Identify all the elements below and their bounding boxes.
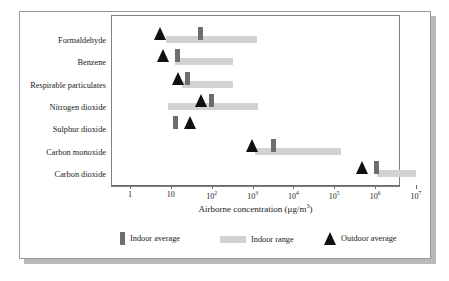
x-axis-tick-label: 104 [288, 190, 299, 201]
x-axis-tick [130, 185, 131, 189]
indoor-range-bar [377, 170, 416, 177]
category-label: Benzene [77, 58, 106, 68]
x-axis-tick [293, 185, 294, 189]
x-axis-tick-label: 103 [247, 190, 258, 201]
x-axis-title-tail: ) [309, 204, 312, 214]
x-axis-tick-label: 10 [167, 190, 175, 199]
indoor-average-marker [185, 72, 190, 85]
category-label: Nitrogen dioxide [50, 103, 106, 113]
legend-item-indoor-range: Indoor range [220, 235, 294, 244]
outdoor-average-marker-icon [157, 49, 169, 62]
x-axis-tick-label: 106 [370, 190, 381, 201]
legend-item-outdoor-average: Outdoor average [324, 232, 397, 245]
x-axis-title: Airborne concentration (μg/m3) [111, 203, 400, 214]
indoor-range-bar [175, 58, 233, 65]
indoor-average-marker [198, 27, 203, 40]
legend-label-indoor-average: Indoor average [130, 234, 180, 243]
indoor-average-marker [173, 116, 178, 129]
x-axis-tick-label: 105 [329, 190, 340, 201]
outdoor-average-marker-icon [195, 94, 207, 107]
x-axis-tick [212, 185, 213, 189]
indoor-average-swatch-icon [120, 232, 125, 245]
category-label: Carbon dioxide [55, 170, 106, 180]
legend-label-indoor-range: Indoor range [251, 235, 294, 244]
indoor-average-marker [271, 139, 276, 152]
outdoor-average-marker-icon [246, 139, 258, 152]
indoor-average-marker [175, 49, 180, 62]
x-axis-title-text: Airborne concentration (μg/m [199, 204, 307, 214]
x-axis-tick [334, 185, 335, 189]
legend-item-indoor-average: Indoor average [120, 232, 180, 245]
x-axis-tick [253, 185, 254, 189]
category-label: Respirable particulates [30, 81, 106, 91]
x-axis-tick-label: 1 [128, 190, 132, 199]
x-axis-tick [375, 185, 376, 189]
category-label: Formaldehyde [58, 36, 106, 46]
indoor-range-swatch-icon [220, 236, 246, 243]
category-label: Sulphur dioxide [53, 125, 106, 135]
chart-legend: Indoor average Indoor range Outdoor aver… [120, 232, 410, 250]
outdoor-average-marker-icon [356, 161, 368, 174]
outdoor-average-marker-icon [184, 116, 196, 129]
legend-label-outdoor-average: Outdoor average [341, 234, 397, 243]
x-axis-line [111, 185, 400, 186]
indoor-average-marker [374, 161, 379, 174]
outdoor-average-marker-icon [154, 27, 166, 40]
x-axis-tick-label: 102 [206, 190, 217, 201]
indoor-range-bar [255, 148, 341, 155]
indoor-average-marker [209, 94, 214, 107]
x-axis-tick [416, 185, 417, 189]
indoor-range-bar [166, 36, 257, 43]
x-axis-tick [171, 185, 172, 189]
category-label: Carbon monoxide [46, 148, 106, 158]
outdoor-average-marker-icon [172, 72, 184, 85]
outdoor-average-triangle-icon [324, 232, 336, 245]
x-axis-tick-label: 107 [411, 190, 422, 201]
category-label-group: FormaldehydeBenzeneRespirable particulat… [22, 15, 110, 185]
figure-page: FormaldehydeBenzeneRespirable particulat… [0, 0, 449, 281]
